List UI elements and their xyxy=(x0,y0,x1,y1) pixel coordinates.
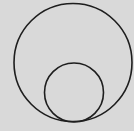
tangent-circles-diagram xyxy=(0,0,134,131)
